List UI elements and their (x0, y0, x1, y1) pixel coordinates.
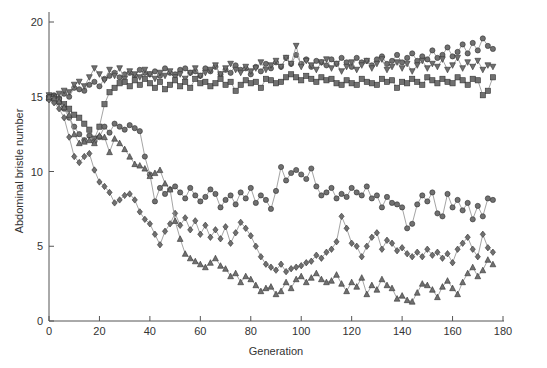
circle-marker-icon (354, 190, 359, 195)
diamond-marker-icon (354, 243, 359, 249)
circle-marker-icon (97, 84, 102, 89)
square-marker-icon (314, 79, 319, 84)
triangle-down-marker-icon (112, 73, 118, 79)
series-group (46, 36, 496, 304)
triangle-down-marker-icon (435, 64, 441, 70)
diamond-marker-icon (294, 264, 299, 270)
circle-marker-icon (258, 69, 263, 74)
triangle-marker-icon (445, 278, 451, 284)
square-marker-icon (304, 73, 309, 78)
circle-marker-icon (193, 193, 198, 198)
triangle-marker-icon (283, 279, 289, 285)
circle-marker-icon (430, 48, 435, 53)
square-marker-icon (112, 85, 117, 90)
square-marker-icon (440, 76, 445, 81)
square-marker-icon (273, 81, 278, 86)
square-marker-icon (263, 76, 268, 81)
circle-marker-icon (213, 191, 218, 196)
circle-marker-icon (273, 188, 278, 193)
diamond-marker-icon (268, 264, 273, 270)
square-marker-icon (208, 84, 213, 89)
square-marker-icon (137, 82, 142, 87)
circle-marker-icon (319, 193, 324, 198)
circle-marker-icon (374, 193, 379, 198)
circle-marker-icon (324, 190, 329, 195)
triangle-marker-icon (162, 180, 168, 186)
triangle-marker-icon (344, 288, 350, 294)
circle-marker-icon (400, 60, 405, 65)
diamond-marker-icon (193, 218, 198, 224)
diamond-marker-icon (384, 237, 389, 243)
triangle-marker-icon (485, 257, 491, 263)
square-marker-icon (117, 81, 122, 86)
square-marker-icon (132, 78, 137, 83)
circle-marker-icon (490, 46, 495, 51)
square-marker-icon (369, 81, 374, 86)
circle-marker-icon (394, 52, 399, 57)
square-marker-icon (173, 78, 178, 83)
square-marker-icon (465, 82, 470, 87)
triangle-down-marker-icon (339, 69, 345, 75)
triangle-marker-icon (107, 149, 113, 155)
diamond-marker-icon (223, 224, 228, 230)
diamond-marker-icon (67, 134, 72, 140)
square-marker-icon (379, 76, 384, 81)
diamond-marker-icon (344, 225, 349, 231)
triangle-marker-icon (278, 288, 284, 294)
triangle-marker-icon (369, 282, 375, 288)
series-3 (46, 72, 495, 141)
y-ticks: 05101520 (31, 16, 54, 327)
diamond-marker-icon (228, 240, 233, 246)
square-marker-icon (218, 76, 223, 81)
triangle-down-marker-icon (455, 55, 461, 61)
circle-marker-icon (268, 206, 273, 211)
triangle-marker-icon (157, 167, 163, 173)
diamond-marker-icon (415, 249, 420, 255)
square-marker-icon (77, 115, 82, 120)
triangle-marker-icon (71, 131, 77, 137)
square-marker-icon (213, 81, 218, 86)
square-marker-icon (248, 81, 253, 86)
circle-marker-icon (470, 217, 475, 222)
circle-marker-icon (92, 79, 97, 84)
triangle-down-marker-icon (409, 69, 415, 75)
circle-marker-icon (309, 166, 314, 171)
square-marker-icon (253, 79, 258, 84)
square-marker-icon (162, 87, 167, 92)
square-marker-icon (223, 82, 228, 87)
circle-marker-icon (228, 193, 233, 198)
triangle-marker-icon (112, 136, 118, 142)
triangle-marker-icon (450, 285, 456, 291)
circle-marker-icon (188, 185, 193, 190)
square-marker-icon (294, 75, 299, 80)
square-marker-icon (203, 79, 208, 84)
triangle-down-marker-icon (470, 64, 476, 70)
circle-marker-icon (183, 196, 188, 201)
circle-marker-icon (173, 184, 178, 189)
circle-marker-icon (405, 55, 410, 60)
square-marker-icon (178, 84, 183, 89)
x-axis-label: Generation (249, 345, 303, 357)
x-tick-label: 0 (46, 325, 52, 337)
y-tick-label: 20 (31, 16, 43, 28)
square-marker-icon (490, 75, 495, 80)
circle-marker-icon (435, 55, 440, 60)
circle-marker-icon (490, 197, 495, 202)
triangle-down-marker-icon (480, 67, 486, 73)
square-marker-icon (405, 81, 410, 86)
square-marker-icon (324, 78, 329, 83)
circle-marker-icon (178, 190, 183, 195)
square-marker-icon (430, 78, 435, 83)
circle-marker-icon (415, 202, 420, 207)
circle-marker-icon (77, 132, 82, 137)
square-marker-icon (400, 79, 405, 84)
x-tick-label: 100 (292, 325, 310, 337)
diamond-marker-icon (218, 236, 223, 242)
circle-marker-icon (314, 184, 319, 189)
series-4 (46, 94, 495, 231)
triangle-marker-icon (339, 281, 345, 287)
square-marker-icon (349, 81, 354, 86)
circle-marker-icon (389, 58, 394, 63)
diamond-marker-icon (198, 231, 203, 237)
circle-marker-icon (77, 87, 82, 92)
